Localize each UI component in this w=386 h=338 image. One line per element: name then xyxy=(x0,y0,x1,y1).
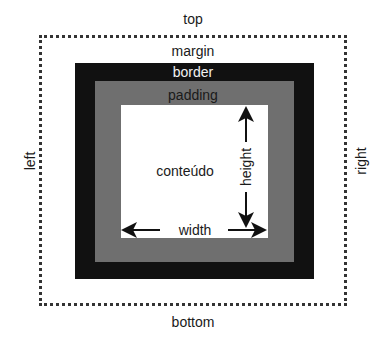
height-label: height xyxy=(238,142,254,192)
dimension-arrows xyxy=(0,0,386,338)
width-label: width xyxy=(165,222,225,238)
